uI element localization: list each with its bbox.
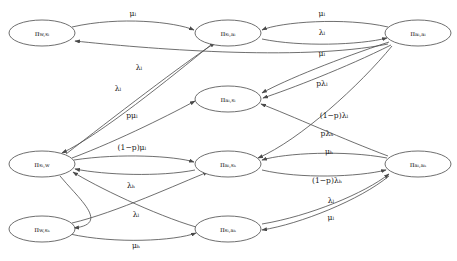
edge-sl_w-to-al_sh <box>74 156 194 162</box>
node-sl_ah[interactable]: πsₗ,aₕ <box>195 216 261 242</box>
node-sl_al[interactable]: πsₗ,aₗ <box>195 20 261 46</box>
edge-label: μₕ <box>132 241 140 250</box>
edge-label: (1−p)λₕ <box>312 176 342 185</box>
edge-label: λₗ <box>115 84 122 93</box>
edge-al_sh-to-sl_w <box>75 169 195 174</box>
edge-label: pλₕ <box>321 129 334 138</box>
nodes-layer: πw,sₗπsₗ,aₗπaₗ,aₗπaₗ,sₗπsₗ,wπaₗ,sₕπaₗ,aₕ… <box>9 20 451 242</box>
edge-label: μₗ <box>319 49 326 58</box>
edge-label: λₗ <box>136 63 143 72</box>
edge-label: λₗ <box>319 28 326 37</box>
edge-w_sh-to-al_sh <box>72 172 208 223</box>
edge-label: μₗ <box>319 9 326 18</box>
edge-label: λₗ <box>133 210 140 219</box>
edge-label: (1−p)μₗ <box>118 143 147 152</box>
edge-label: pλₗ <box>316 79 328 88</box>
node-al_al[interactable]: πaₗ,aₗ <box>385 20 451 46</box>
node-al_ah[interactable]: πaₗ,aₕ <box>385 151 451 177</box>
edge-label: λₗ <box>328 196 335 205</box>
node-w_sl[interactable]: πw,sₗ <box>9 20 75 46</box>
edge-label: μₗ <box>328 213 335 222</box>
edge-label: μₕ <box>325 147 333 156</box>
node-al_sh[interactable]: πaₗ,sₕ <box>195 151 261 177</box>
edge-label: pμₗ <box>126 111 138 120</box>
edge-w_sl-to-sl_al <box>72 21 194 30</box>
node-w_sh[interactable]: πw,sₕ <box>9 216 75 242</box>
edge-al_al-to-al_sh <box>258 46 392 158</box>
node-sl_w[interactable]: πsₗ,w <box>9 151 75 177</box>
edge-label: μₗ <box>130 9 137 18</box>
edge-label: λₕ <box>127 181 135 190</box>
edge-w_sh-to-sl_ah <box>70 233 196 240</box>
state-transition-diagram: πw,sₗπsₗ,aₗπaₗ,aₗπaₗ,sₗπsₗ,wπaₗ,sₕπaₗ,aₕ… <box>0 0 457 261</box>
edges-layer <box>60 21 392 240</box>
node-al_sl[interactable]: πaₗ,sₗ <box>195 86 261 112</box>
edge-label: (1−p)λₗ <box>320 111 349 120</box>
edge-sl_al-to-al_al <box>262 38 387 44</box>
diagram-canvas: πw,sₗπsₗ,aₗπaₗ,aₗπaₗ,sₗπsₗ,wπaₗ,sₕπaₗ,aₕ… <box>0 0 457 261</box>
